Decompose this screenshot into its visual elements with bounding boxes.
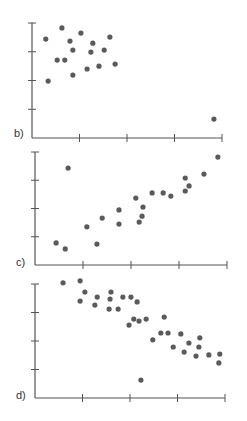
data-point bbox=[196, 344, 201, 349]
data-point bbox=[165, 330, 170, 335]
data-point bbox=[211, 116, 216, 121]
data-point bbox=[197, 335, 202, 340]
data-point bbox=[136, 318, 141, 323]
data-point bbox=[178, 331, 183, 336]
data-point bbox=[67, 39, 72, 44]
data-point bbox=[85, 66, 90, 71]
data-point bbox=[186, 183, 191, 188]
data-point bbox=[206, 352, 211, 357]
panel-label-d: d) bbox=[16, 389, 26, 401]
data-point bbox=[182, 350, 187, 355]
data-point bbox=[140, 204, 145, 209]
data-point bbox=[137, 219, 142, 224]
data-point bbox=[92, 302, 97, 307]
data-point bbox=[201, 171, 206, 176]
data-point bbox=[78, 299, 83, 304]
data-point bbox=[102, 47, 107, 52]
data-point bbox=[162, 314, 167, 319]
data-point bbox=[94, 241, 99, 246]
data-point bbox=[138, 377, 143, 382]
data-point bbox=[116, 306, 121, 311]
data-point bbox=[150, 190, 155, 195]
data-point bbox=[78, 278, 83, 283]
data-point bbox=[59, 25, 64, 30]
data-point bbox=[116, 221, 121, 226]
data-point bbox=[107, 34, 112, 39]
data-point bbox=[193, 354, 198, 359]
data-point bbox=[82, 289, 87, 294]
data-point bbox=[116, 207, 121, 212]
data-point bbox=[131, 316, 136, 321]
data-point bbox=[88, 49, 93, 54]
data-point bbox=[158, 330, 163, 335]
panel-label-c: c) bbox=[16, 256, 25, 268]
data-point bbox=[215, 154, 220, 159]
data-point bbox=[60, 280, 65, 285]
data-point bbox=[43, 37, 48, 42]
data-point bbox=[144, 316, 149, 321]
data-point bbox=[128, 295, 133, 300]
data-point bbox=[186, 340, 191, 345]
data-point bbox=[95, 295, 100, 300]
data-point bbox=[96, 64, 101, 69]
data-point bbox=[135, 299, 140, 304]
data-point bbox=[107, 297, 112, 302]
data-point bbox=[133, 195, 138, 200]
data-point bbox=[139, 214, 144, 219]
scatter-panel-b: b) bbox=[0, 0, 247, 145]
data-point bbox=[126, 322, 131, 327]
data-point bbox=[171, 344, 176, 349]
data-point bbox=[62, 57, 67, 62]
data-point bbox=[216, 360, 221, 365]
data-point bbox=[168, 193, 173, 198]
data-point bbox=[46, 78, 51, 83]
data-point bbox=[183, 175, 188, 180]
data-point bbox=[113, 62, 118, 67]
data-point bbox=[66, 166, 71, 171]
data-point bbox=[183, 188, 188, 193]
data-point bbox=[150, 337, 155, 342]
data-point bbox=[107, 306, 112, 311]
data-point bbox=[54, 240, 59, 245]
data-point bbox=[100, 216, 105, 221]
panel-label-b: b) bbox=[14, 127, 24, 139]
data-point bbox=[90, 41, 95, 46]
data-point bbox=[63, 246, 68, 251]
data-point bbox=[78, 30, 83, 35]
data-point bbox=[217, 352, 222, 357]
data-point bbox=[108, 289, 113, 294]
data-point bbox=[55, 57, 60, 62]
data-point bbox=[84, 224, 89, 229]
data-point bbox=[70, 47, 75, 52]
scatter-plot-b bbox=[0, 0, 247, 145]
data-point bbox=[161, 190, 166, 195]
data-point bbox=[120, 295, 125, 300]
data-point bbox=[70, 72, 75, 77]
